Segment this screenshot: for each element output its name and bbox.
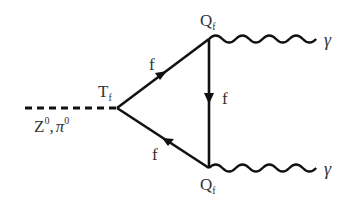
- photon-label-top: γ: [324, 30, 332, 50]
- incoming-label: Z0,π0: [34, 115, 69, 136]
- arrow-vertical-icon: [204, 93, 214, 104]
- photon-wave-bottom: [209, 165, 316, 172]
- fermion-line-lower: [117, 108, 209, 168]
- vertex-label-top: Qf: [200, 11, 216, 32]
- vertex-label-left: Tf: [98, 82, 112, 103]
- photon-label-bottom: γ: [324, 159, 332, 179]
- fermion-label-upper: f: [149, 55, 155, 74]
- vertex-label-bottom: Qf: [200, 175, 216, 196]
- fermion-label-vertical: f: [222, 89, 228, 108]
- photon-wave-top: [209, 36, 316, 43]
- fermion-label-lower: f: [152, 145, 158, 164]
- feynman-diagram: Tf Qf Qf f f f Z0,π0 γ γ: [0, 0, 360, 207]
